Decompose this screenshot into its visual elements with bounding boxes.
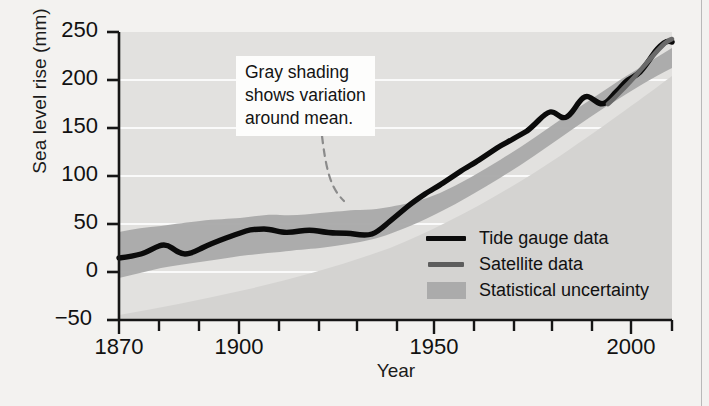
legend-label-tide-gauge-data: Tide gauge data: [479, 228, 608, 249]
legend-label-satellite-data: Satellite data: [479, 254, 583, 275]
legend-line-icon-satellite: [424, 262, 468, 267]
legend-label-statistical-uncertainty: Statistical uncertainty: [479, 280, 649, 301]
legend-item-satellite-data: Satellite data: [424, 251, 649, 277]
annotation-callout: Gray shading shows variation around mean…: [236, 56, 375, 136]
xtick-label-2000: 2000: [586, 334, 676, 360]
legend-line-icon-tide-gauge: [424, 236, 468, 241]
xtick-label-1870: 1870: [74, 334, 164, 360]
legend-item-statistical-uncertainty: Statistical uncertainty: [424, 277, 649, 303]
y-axis-title: Sea level rise (mm): [29, 0, 51, 201]
xtick-label-1900: 1900: [194, 334, 284, 360]
ytick-label-minus50: −50: [22, 305, 92, 331]
annotation-line-1: Gray shading: [245, 61, 366, 84]
figure-sea-level-rise: 250 200 150 100 50 0 −50 1870 1900 1950 …: [0, 0, 709, 406]
annotation-line-3: around mean.: [245, 107, 366, 130]
chart-legend: Tide gauge data Satellite data Statistic…: [424, 225, 649, 303]
legend-item-tide-gauge-data: Tide gauge data: [424, 225, 649, 251]
y-axis-ticks: [107, 32, 119, 320]
ytick-label-50: 50: [28, 209, 98, 235]
ytick-label-0: 0: [28, 257, 98, 283]
xtick-label-1950: 1950: [389, 334, 479, 360]
x-axis-ticks: [119, 320, 672, 334]
legend-swatch-icon-uncertainty: [424, 282, 468, 299]
x-axis-title: Year: [120, 360, 672, 382]
annotation-line-2: shows variation: [245, 84, 366, 107]
